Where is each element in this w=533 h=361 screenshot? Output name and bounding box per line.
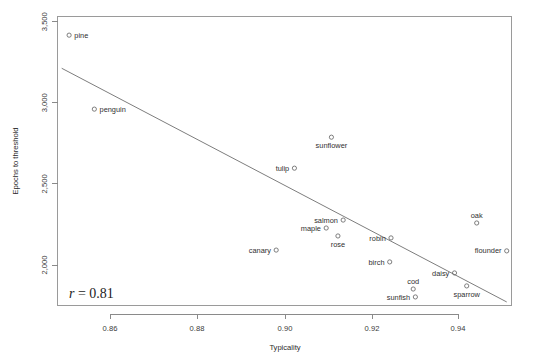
point-marker-cod bbox=[411, 287, 415, 291]
point-label-rose: rose bbox=[331, 240, 345, 249]
data-point-canary: canary bbox=[249, 246, 278, 255]
data-point-oak: oak bbox=[471, 211, 483, 225]
plot-frame bbox=[58, 17, 512, 306]
point-label-flounder: flounder bbox=[475, 246, 502, 255]
data-point-cod: cod bbox=[407, 277, 419, 291]
data-point-maple: maple bbox=[301, 224, 328, 233]
x-tick-label-090: 0.90 bbox=[278, 324, 293, 333]
x-tick-label-088: 0.88 bbox=[190, 324, 205, 333]
point-marker-rose bbox=[336, 234, 340, 238]
point-marker-robin bbox=[389, 236, 393, 240]
point-label-oak: oak bbox=[471, 211, 483, 220]
data-point-tulip: tulip bbox=[276, 164, 297, 173]
point-marker-tulip bbox=[292, 166, 296, 170]
correlation-annotation: r = 0.81 bbox=[69, 286, 114, 301]
x-tick-label-094: 0.94 bbox=[451, 324, 466, 333]
point-marker-maple bbox=[324, 226, 328, 230]
data-point-penguin: penguin bbox=[92, 105, 126, 114]
point-marker-penguin bbox=[92, 107, 96, 111]
y-tick-label-3500: 3,500 bbox=[40, 12, 49, 31]
scatter-plot-figure: 3,500 3,000 2,500 2,000 Epochs to thresh… bbox=[0, 0, 533, 361]
point-label-cod: cod bbox=[407, 277, 419, 286]
point-label-maple: maple bbox=[301, 224, 321, 233]
data-point-sunflower: sunflower bbox=[316, 135, 348, 150]
point-label-tulip: tulip bbox=[276, 164, 290, 173]
data-point-birch: birch bbox=[368, 258, 391, 267]
point-marker-birch bbox=[388, 260, 392, 264]
data-point-flounder: flounder bbox=[475, 246, 509, 255]
data-point-pine: pine bbox=[67, 31, 88, 40]
data-point-rose: rose bbox=[331, 234, 345, 249]
point-label-penguin: penguin bbox=[100, 105, 126, 114]
point-label-pine: pine bbox=[74, 31, 88, 40]
plot-canvas: 3,500 3,000 2,500 2,000 Epochs to thresh… bbox=[0, 0, 533, 361]
point-marker-pine bbox=[67, 33, 71, 37]
y-axis-title: Epochs to threshold bbox=[11, 127, 20, 194]
data-point-robin: robin bbox=[369, 234, 393, 243]
x-tick-label-092: 0.92 bbox=[365, 324, 380, 333]
data-point-sunfish: sunfish bbox=[387, 293, 418, 302]
point-marker-salmon bbox=[341, 218, 345, 222]
point-marker-sunflower bbox=[329, 135, 333, 139]
point-label-daisy: daisy bbox=[432, 269, 450, 278]
point-marker-oak bbox=[475, 221, 479, 225]
point-marker-canary bbox=[274, 248, 278, 252]
y-tick-label-3000: 3,000 bbox=[40, 93, 49, 112]
regression-line bbox=[62, 68, 507, 302]
y-axis-tick-labels: 3,500 3,000 2,500 2,000 bbox=[40, 12, 49, 274]
point-label-canary: canary bbox=[249, 246, 271, 255]
point-marker-sunfish bbox=[413, 295, 417, 299]
correlation-value: = 0.81 bbox=[74, 286, 113, 301]
point-label-sunflower: sunflower bbox=[316, 141, 348, 150]
x-axis-title: Typicality bbox=[269, 343, 300, 352]
data-point-daisy: daisy bbox=[432, 269, 457, 278]
point-label-birch: birch bbox=[368, 258, 384, 267]
point-label-robin: robin bbox=[369, 234, 385, 243]
x-tick-label-086: 0.86 bbox=[103, 324, 118, 333]
y-tick-label-2000: 2,000 bbox=[40, 255, 49, 274]
point-marker-sparrow bbox=[465, 284, 469, 288]
point-label-sparrow: sparrow bbox=[454, 290, 481, 299]
data-points-layer: pinepenguinsunflowertulipoaksalmonmapler… bbox=[67, 31, 509, 302]
point-marker-flounder bbox=[505, 249, 509, 253]
point-label-sunfish: sunfish bbox=[387, 293, 410, 302]
x-axis-tick-labels: 0.86 0.88 0.90 0.92 0.94 bbox=[103, 324, 466, 333]
y-tick-label-2500: 2,500 bbox=[40, 174, 49, 193]
x-axis-ticks bbox=[110, 314, 458, 319]
y-axis-ticks bbox=[52, 22, 58, 265]
